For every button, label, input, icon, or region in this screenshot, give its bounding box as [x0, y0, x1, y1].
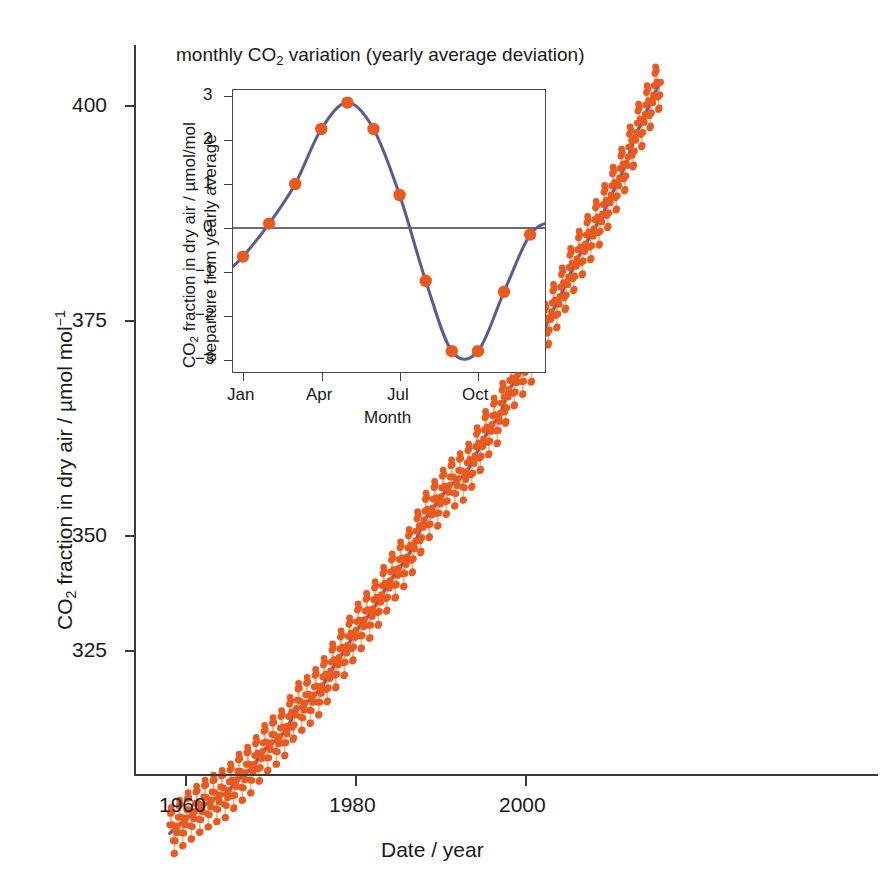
- inset-y-axis-label-rest: fraction in dry air / µmol/mol: [180, 122, 199, 336]
- main-xtick-1960: 1960: [159, 793, 206, 817]
- main-y-tickmark: [125, 320, 134, 322]
- inset-y-tickmark: [224, 184, 232, 185]
- main-x-tickmark: [525, 776, 527, 786]
- inset-title: monthly CO2 variation (yearly average de…: [176, 44, 585, 68]
- inset-title-sub: 2: [276, 53, 283, 68]
- inset-x-tickmark: [478, 373, 479, 381]
- inset-x-axis-label: Month: [364, 408, 411, 428]
- inset-y-tickmark: [224, 360, 232, 361]
- inset-x-tickmark: [400, 373, 401, 381]
- main-y-tickmark: [125, 650, 134, 652]
- main-xtick-2000: 2000: [499, 793, 546, 817]
- inset-y-axis-label-line2: departure from yearly average: [201, 134, 221, 362]
- main-y-tickmark: [125, 105, 134, 107]
- main-y-axis-label-prefix: CO: [53, 599, 76, 631]
- inset-xtick-apr: Apr: [306, 385, 332, 405]
- co2-figure: 400 375 350 325 1960 1980 2000 Date / ye…: [0, 0, 896, 886]
- inset-title-prefix: monthly CO: [176, 44, 276, 65]
- main-y-axis-label-sup: −1: [52, 310, 68, 326]
- inset-y-axis-label-line1: CO2 fraction in dry air / µmol/mol: [180, 122, 200, 368]
- main-ytick-325: 325: [72, 638, 107, 662]
- main-x-axis-label: Date / year: [381, 838, 484, 862]
- main-x-tickmark: [355, 776, 357, 786]
- inset-y-tickmark: [224, 140, 232, 141]
- inset-y-axis-label-sub: 2: [188, 336, 200, 342]
- inset-y-tickmark: [224, 96, 232, 97]
- inset-xtick-jul: Jul: [387, 385, 409, 405]
- main-y-axis-label-rest: fraction in dry air / µmol mol: [53, 326, 76, 590]
- inset-plot-frame: [232, 89, 546, 373]
- inset-ytick-3: 3: [203, 85, 212, 105]
- main-x-tickmark: [185, 776, 187, 786]
- main-y-tickmark: [125, 535, 134, 537]
- main-x-axis-label-text: Date / year: [381, 838, 484, 861]
- main-y-axis-label: CO2 fraction in dry air / µmol mol−1: [52, 310, 79, 630]
- inset-y-tickmark: [224, 228, 232, 229]
- inset-y-axis-label-prefix: CO: [180, 343, 199, 369]
- inset-x-tickmark: [243, 373, 244, 381]
- inset-x-tickmark: [322, 373, 323, 381]
- inset-xtick-oct: Oct: [462, 385, 488, 405]
- inset-title-rest: variation (yearly average deviation): [284, 44, 585, 65]
- main-y-axis-label-sub: 2: [63, 591, 79, 599]
- main-y-axis-spine: [134, 45, 136, 776]
- inset-y-tickmark: [224, 272, 232, 273]
- main-xtick-1980: 1980: [329, 793, 376, 817]
- main-x-axis-spine: [134, 774, 878, 776]
- inset-xtick-jan: Jan: [227, 385, 254, 405]
- inset-y-tickmark: [224, 316, 232, 317]
- main-ytick-400: 400: [72, 93, 107, 117]
